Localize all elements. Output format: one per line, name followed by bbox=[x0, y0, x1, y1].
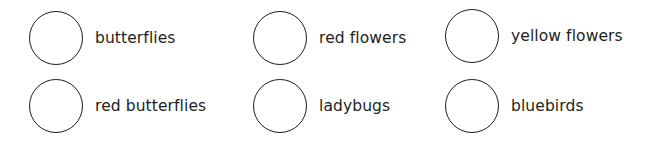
option-label: red flowers bbox=[319, 29, 406, 47]
answer-circle[interactable] bbox=[253, 79, 307, 133]
option-red-flowers[interactable]: red flowers bbox=[253, 11, 406, 65]
option-ladybugs[interactable]: ladybugs bbox=[253, 79, 390, 133]
option-label: ladybugs bbox=[319, 97, 390, 115]
answer-circle[interactable] bbox=[29, 11, 83, 65]
option-label: yellow flowers bbox=[511, 27, 623, 45]
option-red-butterflies[interactable]: red butterflies bbox=[29, 79, 206, 133]
option-label: butterflies bbox=[95, 29, 176, 47]
option-label: bluebirds bbox=[511, 97, 584, 115]
option-yellow-flowers[interactable]: yellow flowers bbox=[445, 9, 623, 63]
option-bluebirds[interactable]: bluebirds bbox=[445, 79, 584, 133]
answer-circle[interactable] bbox=[445, 79, 499, 133]
answer-circle[interactable] bbox=[29, 79, 83, 133]
answer-circle[interactable] bbox=[445, 9, 499, 63]
option-butterflies[interactable]: butterflies bbox=[29, 11, 176, 65]
option-label: red butterflies bbox=[95, 97, 206, 115]
answer-circle[interactable] bbox=[253, 11, 307, 65]
